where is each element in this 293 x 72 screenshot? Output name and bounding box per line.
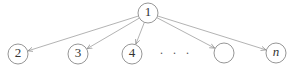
node-4: 4 [122,44,142,64]
node-circle [214,43,234,63]
node-label: 2 [15,45,22,60]
node-2: 2 [8,44,28,64]
node-label: 3 [75,45,82,60]
tree-diagram: 1234n · · · [0,0,293,72]
node-label: 4 [129,45,136,60]
node-label: n [273,44,280,59]
node-blank [214,43,234,63]
node-1: 1 [138,3,158,23]
edge-arrow-1-to-4 [136,22,145,44]
ellipsis-text: · · · [160,46,193,60]
edge-arrow-1-to-blank [157,18,215,48]
node-3: 3 [68,44,88,64]
node-label: 1 [145,4,152,19]
node-n: n [266,43,286,63]
nodes-group: 1234n [8,3,286,64]
